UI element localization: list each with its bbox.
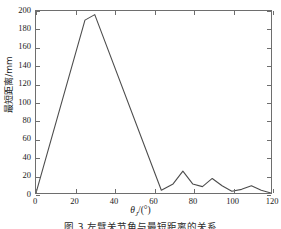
y-axis-title: 最短距离/mm [2,33,15,137]
y-axis-tick [36,66,40,67]
y-tick-label: 100 [18,98,31,107]
x-axis-tick [194,11,195,15]
y-axis-tick [267,29,271,30]
x-axis-tick [76,189,77,193]
y-tick-label: 120 [18,79,31,88]
y-tick-label: 160 [18,42,31,51]
y-axis-tick [36,177,40,178]
y-axis-tick [36,85,40,86]
y-axis-tick [267,103,271,104]
x-axis-tick [155,189,156,193]
x-axis-tick [36,189,37,193]
y-axis-tick [36,121,40,122]
figure-caption: 图 3 左臂关节角与最短距离的关系 [0,221,281,229]
x-axis-tick [194,189,195,193]
x-axis-tick [76,11,77,15]
x-axis-tick [155,11,156,15]
y-tick-label: 60 [23,134,32,143]
y-tick-label: 80 [23,116,32,125]
x-axis-tick [234,11,235,15]
x-axis-tick [36,11,37,15]
x-axis-tick [273,11,274,15]
y-axis-tick [267,121,271,122]
plot-area [35,10,272,194]
y-tick-label: 180 [18,24,31,33]
y-tick-label: 20 [23,171,32,180]
y-tick-label: 140 [18,61,31,70]
y-axis-tick [267,11,271,12]
data-curve-svg [36,11,271,193]
x-axis-tick [115,189,116,193]
y-axis-tick [36,103,40,104]
y-axis-tick [36,48,40,49]
y-axis-tick [36,29,40,30]
x-axis-unit: /(°) [138,205,151,215]
x-axis-tick [234,189,235,193]
x-axis-tick [273,189,274,193]
y-axis-tick [36,158,40,159]
figure-root: 020406080100120140160180200 020406080100… [0,0,281,229]
y-axis-tick [267,177,271,178]
y-axis-tick [267,66,271,67]
y-axis-tick [267,85,271,86]
y-axis-tick [267,158,271,159]
x-axis-tick [115,11,116,15]
y-axis-tick [36,140,40,141]
y-axis-tick [267,140,271,141]
y-tick-label: 40 [23,153,32,162]
x-axis-title: θJ/(°) [0,205,281,218]
y-axis-tick [267,48,271,49]
y-tick-label: 200 [18,6,31,15]
series-line-shortest-distance [36,15,271,193]
